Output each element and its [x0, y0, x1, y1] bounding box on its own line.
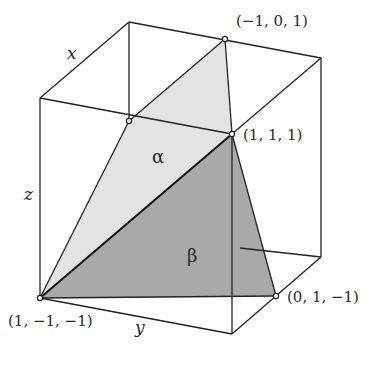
- point-label-p3: (1, −1, −1): [8, 312, 93, 330]
- point-label-p2: (1, 1, 1): [243, 126, 302, 144]
- vertex-marker-p4: [273, 293, 278, 298]
- edge-top-left: [40, 22, 129, 98]
- vertex-marker-edge-midpoint: [126, 118, 131, 123]
- axis-label-x: x: [67, 43, 77, 63]
- point-label-p4: (0, 1, −1): [287, 288, 359, 306]
- plane-label-alpha: α: [152, 146, 164, 167]
- vertex-marker-p3: [37, 295, 42, 300]
- point-label-p1: (−1, 0, 1): [236, 12, 308, 30]
- vertex-marker-p2: [229, 131, 234, 136]
- edge-top-right: [232, 58, 321, 134]
- diagram-svg: x z y α β (−1, 0, 1) (1, 1, 1) (1, −1, −…: [0, 0, 378, 372]
- axis-label-y: y: [134, 317, 145, 337]
- vertex-marker-p1: [222, 36, 227, 41]
- plane-label-beta: β: [187, 245, 197, 266]
- axis-label-z: z: [23, 184, 34, 204]
- cube-diagram: x z y α β (−1, 0, 1) (1, 1, 1) (1, −1, −…: [0, 0, 378, 372]
